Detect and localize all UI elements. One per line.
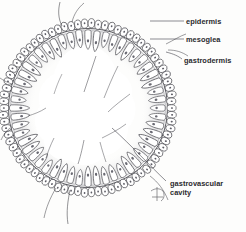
epidermal-cell [88,18,95,27]
epidermal-cell [81,19,88,28]
epidermal-cell [0,105,9,112]
label-gastrovascular-cavity-line1: gastrovascular [170,179,223,188]
epidermal-cell [88,187,95,196]
label-gastrodermis: gastrodermis [184,56,231,65]
cnidarian-cross-section-figure: epidermis mesoglea gastrodermis gastrova… [0,0,246,232]
label-epidermis: epidermis [186,17,221,26]
epidermal-cell [167,105,176,112]
label-mesoglea: mesoglea [186,35,221,44]
epidermal-cell [81,188,88,197]
label-gastrovascular-cavity-line2: cavity [170,188,192,197]
